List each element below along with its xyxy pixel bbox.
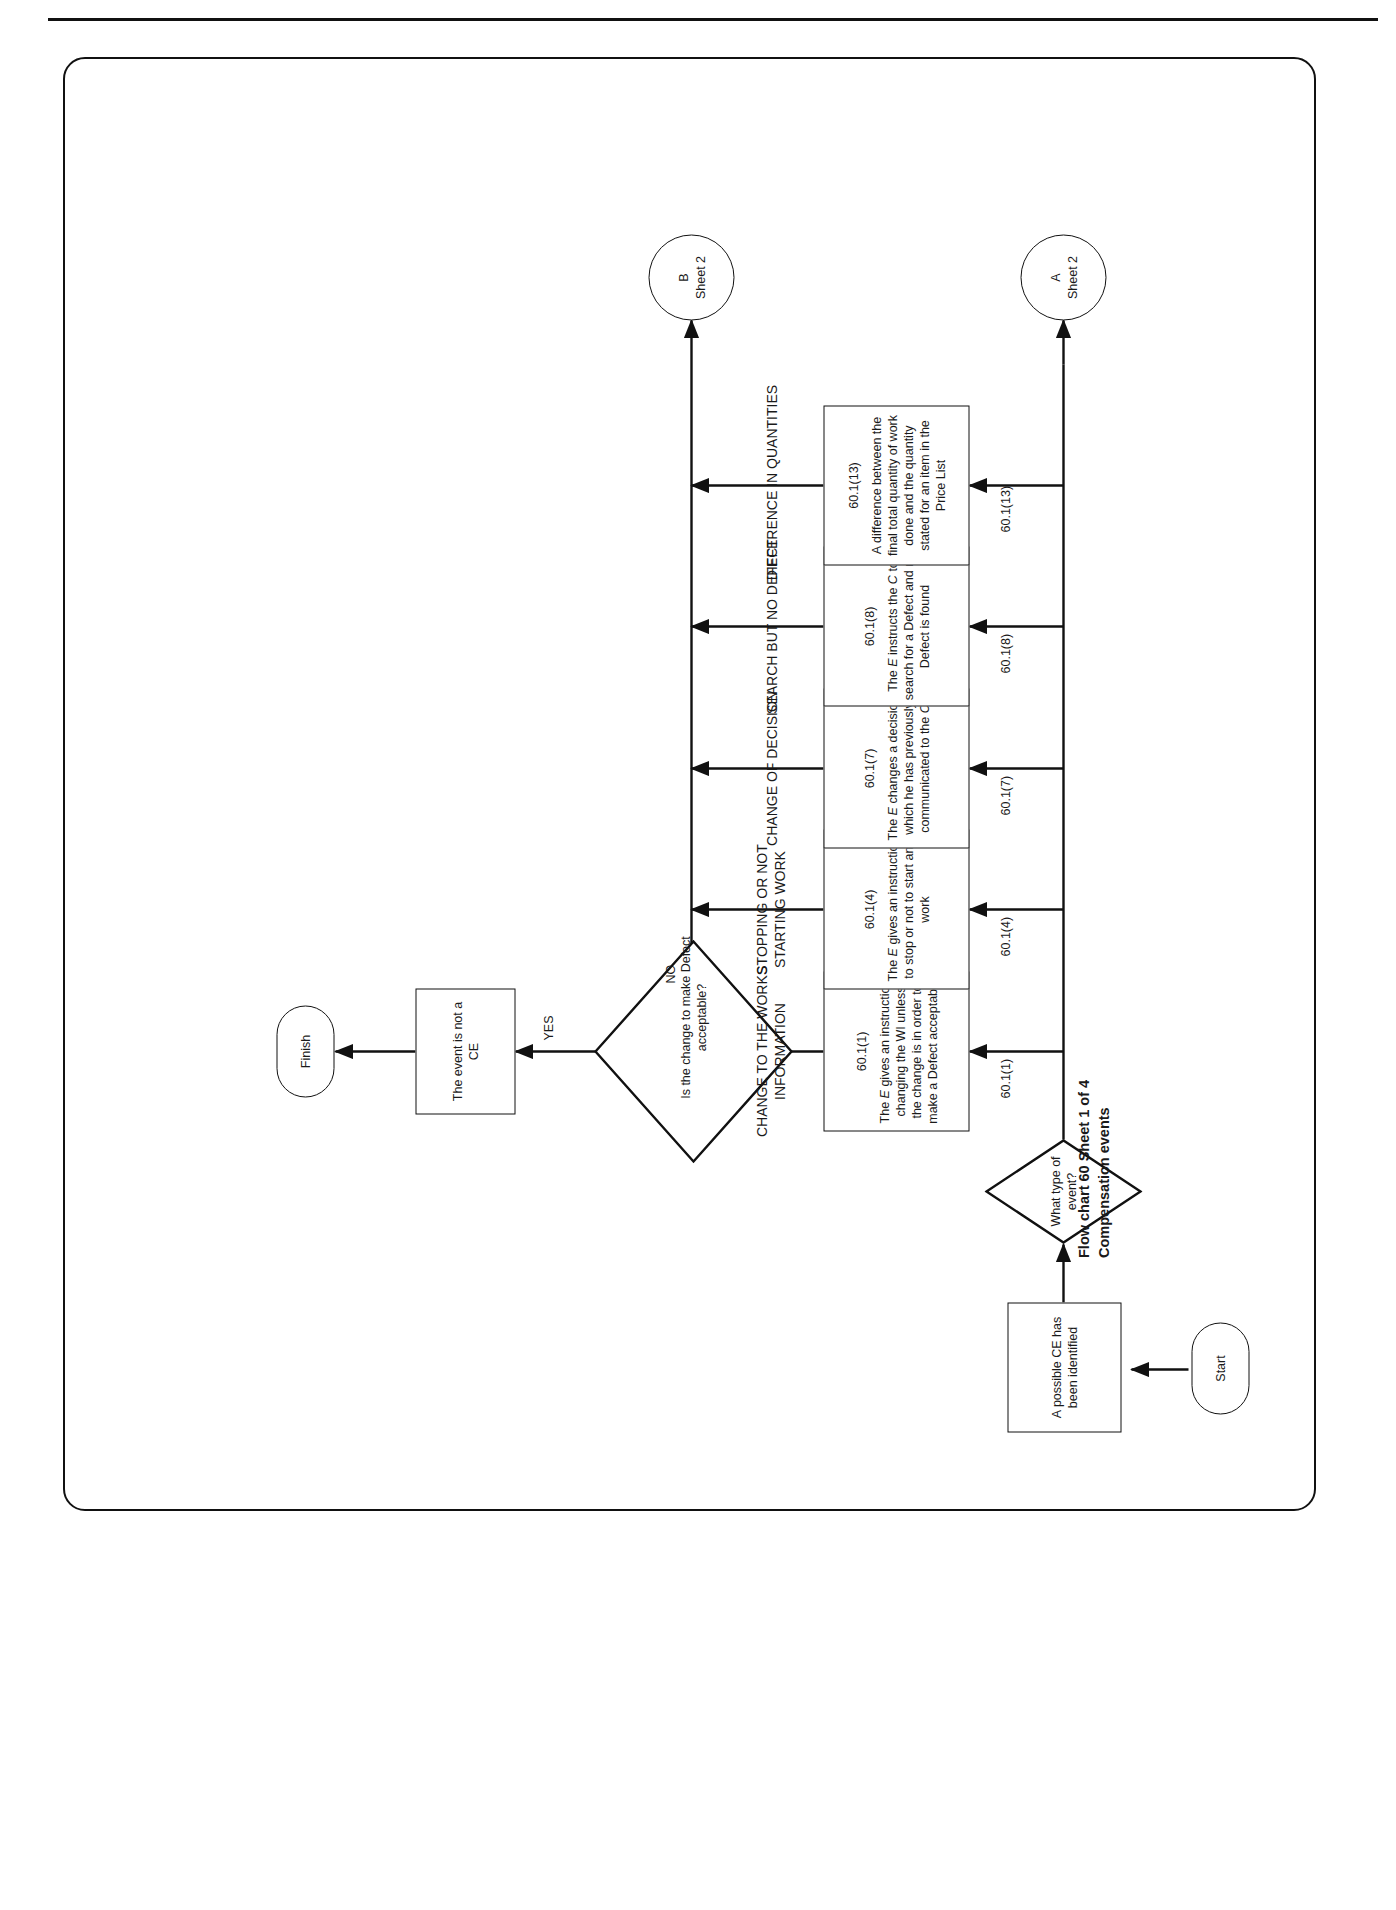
edge-label-clause-4: 60.1(4) <box>999 917 1013 957</box>
connector-a-letter: A <box>1047 273 1063 281</box>
branch-body-4: A difference between the final total qua… <box>868 412 948 560</box>
what-type-decision: What type of event? <box>985 1139 1143 1245</box>
page-top-rule <box>48 18 1378 21</box>
what-type-label: What type of event? <box>985 1139 1143 1245</box>
finish-label: Finish <box>298 1035 314 1068</box>
edge-label-clause-13: 60.1(13) <box>999 486 1013 533</box>
branch-body-1: The E gives an instruction to stop or no… <box>884 836 932 984</box>
possible-ce-label: A possible CE has been identified <box>1049 1309 1081 1427</box>
branch-body-0: The E gives an instruction changing the … <box>876 978 940 1126</box>
branch-box-2: 60.1(7) The E changes a decision which h… <box>824 689 970 849</box>
connector-b-letter: B <box>675 273 691 281</box>
edge-label-clause-7: 60.1(7) <box>999 776 1013 816</box>
branch-box-3: 60.1(8) The E instructs the C to search … <box>824 547 970 707</box>
branch-clause-4: 60.1(13) <box>845 462 861 509</box>
finish-terminator: Finish <box>277 1006 335 1098</box>
event-not-ce-box: The event is not a CE <box>416 989 516 1115</box>
branch-clause-0: 60.1(1) <box>853 1032 869 1072</box>
edge-label-yes: YES <box>542 1015 556 1040</box>
page-canvas: Start A possible CE has been identified … <box>0 0 1396 1910</box>
figure-caption: Flow chart 60 Sheet 1 of 4 Compensation … <box>1075 1080 1114 1258</box>
possible-ce-box: A possible CE has been identified <box>1008 1303 1122 1433</box>
connector-a-sheet: Sheet 2 <box>1064 256 1080 299</box>
flowchart-canvas: Start A possible CE has been identified … <box>64 57 1313 1507</box>
connector-b-sheet: Sheet 2 <box>692 256 708 299</box>
branch-body-2: The E changes a decision which he has pr… <box>884 695 932 843</box>
branch-clause-2: 60.1(7) <box>861 749 877 789</box>
branch-body-3: The E instructs the C to search for a De… <box>884 553 932 701</box>
branch-clause-3: 60.1(8) <box>861 607 877 647</box>
branch-box-4: 60.1(13) A difference between the final … <box>824 406 970 566</box>
edge-label-no: NO <box>664 965 678 984</box>
edge-label-clause-1: 60.1(1) <box>999 1059 1013 1099</box>
flowchart-rotation-wrapper: Start A possible CE has been identified … <box>63 57 1312 1507</box>
branch-clause-1: 60.1(4) <box>861 890 877 930</box>
edge-label-clause-8: 60.1(8) <box>999 634 1013 674</box>
event-not-ce-label: The event is not a CE <box>450 995 482 1109</box>
connector-a: A Sheet 2 <box>1021 235 1107 321</box>
start-terminator: Start <box>1192 1323 1250 1415</box>
branch-box-1: 60.1(4) The E gives an instruction to st… <box>824 830 970 990</box>
connector-b: B Sheet 2 <box>649 235 735 321</box>
section-heading-4: DIFFERENCE IN QUANTITIES <box>764 359 782 607</box>
start-label: Start <box>1213 1355 1229 1381</box>
branch-box-0: 60.1(1) The E gives an instruction chang… <box>824 972 970 1132</box>
